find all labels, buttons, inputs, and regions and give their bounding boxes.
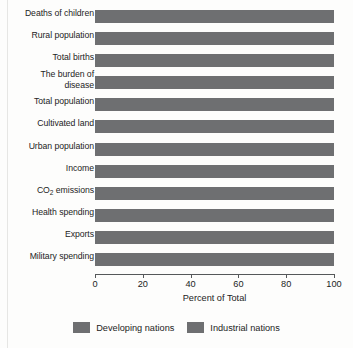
category-label: Military spending — [2, 251, 94, 261]
legend-label: Industrial nations — [210, 323, 279, 333]
x-axis-tick-label: 40 — [185, 279, 195, 289]
x-axis-tick — [238, 274, 239, 278]
category-label: Total births — [2, 52, 94, 62]
bar-track — [95, 32, 334, 45]
bar-segment-developing — [95, 98, 334, 111]
x-axis-tick — [334, 274, 335, 278]
bar-row: The burden ofdisease — [0, 74, 353, 96]
x-axis-tick — [286, 274, 287, 278]
category-label: Total population — [2, 96, 94, 106]
category-label: Cultivated land — [2, 118, 94, 128]
bar-segment-developing — [95, 54, 334, 67]
legend-swatch — [73, 322, 90, 333]
bar-segment-developing — [95, 165, 334, 178]
x-axis-tick — [143, 274, 144, 278]
category-label: Health spending — [2, 207, 94, 217]
bar-track — [95, 231, 334, 244]
x-axis-tick-label: 100 — [326, 279, 341, 289]
bar-row: Military spending — [0, 251, 353, 273]
legend-item[interactable]: Industrial nations — [187, 322, 279, 333]
x-axis-title: Percent of Total — [95, 293, 334, 303]
category-label: Deaths of children — [2, 8, 94, 18]
x-axis-tick-label: 60 — [233, 279, 243, 289]
legend-item[interactable]: Developing nations — [73, 322, 174, 333]
category-label: Urban population — [2, 141, 94, 151]
bar-row: CO2 emissions — [0, 185, 353, 207]
bar-row: Urban population — [0, 141, 353, 163]
bar-row: Cultivated land — [0, 118, 353, 140]
bar-segment-developing — [95, 10, 334, 23]
chart-page: Deaths of childrenRural populationTotal … — [0, 0, 353, 348]
bar-row: Health spending — [0, 207, 353, 229]
bar-segment-developing — [95, 120, 334, 133]
x-axis-tick-label: 20 — [138, 279, 148, 289]
bar-row: Deaths of children — [0, 8, 353, 30]
bar-row: Rural population — [0, 30, 353, 52]
bar-segment-developing — [95, 209, 334, 222]
bar-track — [95, 187, 334, 200]
bar-segment-developing — [95, 32, 334, 45]
plot-area: Deaths of childrenRural populationTotal … — [0, 0, 353, 280]
bar-segment-developing — [95, 76, 334, 89]
legend-label: Developing nations — [96, 323, 174, 333]
x-axis-tick-label: 80 — [281, 279, 291, 289]
bar-rows: Deaths of childrenRural populationTotal … — [0, 8, 353, 273]
x-axis-tick-label: 0 — [92, 279, 97, 289]
bar-track — [95, 209, 334, 222]
bar-track — [95, 54, 334, 67]
x-axis-tick — [95, 274, 96, 278]
chart-legend: Developing nationsIndustrial nations — [0, 322, 353, 333]
category-label: Rural population — [2, 30, 94, 40]
bar-row: Exports — [0, 229, 353, 251]
bar-segment-developing — [95, 231, 334, 244]
category-label: CO2 emissions — [2, 185, 94, 196]
category-label: The burden ofdisease — [2, 69, 94, 90]
x-axis-line — [95, 274, 334, 275]
bar-segment-developing — [95, 253, 334, 266]
bar-track — [95, 143, 334, 156]
bar-track — [95, 76, 334, 89]
category-label: Exports — [2, 229, 94, 239]
bar-track — [95, 120, 334, 133]
bar-track — [95, 253, 334, 266]
bar-track — [95, 10, 334, 23]
bar-row: Total population — [0, 96, 353, 118]
legend-swatch — [187, 322, 204, 333]
bar-segment-developing — [95, 143, 334, 156]
bar-segment-developing — [95, 187, 334, 200]
bar-row: Income — [0, 163, 353, 185]
x-axis-tick — [191, 274, 192, 278]
category-label: Income — [2, 163, 94, 173]
bar-track — [95, 165, 334, 178]
bar-track — [95, 98, 334, 111]
